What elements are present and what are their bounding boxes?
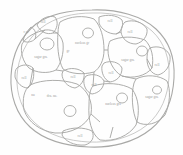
label-cell-left-mid-small: cell <box>22 76 27 80</box>
label-cell-center-sub: gr <box>67 49 71 53</box>
cell-lower-left <box>23 80 91 133</box>
label-cell-edge-left-top: c.w <box>24 30 29 34</box>
cell-right-edge <box>147 47 170 75</box>
label-cell-left-upper: sugar gra. <box>34 55 48 59</box>
nucleus-lower-left <box>64 106 76 117</box>
cell-labels-group: cell sugar gra. c.w nucleus gr gr cell c… <box>22 19 160 138</box>
cell-right-upper <box>121 21 147 44</box>
label-cell-lower-left: dra. nu. <box>47 94 57 98</box>
label-cell-right-mid: sugar gra. <box>121 58 135 62</box>
wall-seam-d <box>122 76 136 79</box>
nucleus-lower-right <box>153 86 162 94</box>
cell-lower-center <box>89 84 139 141</box>
nucleus-center-top <box>83 28 94 38</box>
wall-seam-a <box>56 70 63 71</box>
label-cell-lower-center: nucleus gra <box>105 102 121 106</box>
cell-center-large <box>58 17 104 74</box>
label-cell-right-upper: cell <box>128 30 133 34</box>
label-cell-lower-right: sugar gra. <box>145 95 159 99</box>
label-cell-center-small-a: cell <box>71 75 76 79</box>
label-cell-top-right: cell <box>108 19 113 23</box>
label-cell-top-left-small: cell <box>41 20 46 24</box>
label-cell-center-small-b: cell <box>92 83 97 87</box>
wall-seam-g <box>91 114 100 122</box>
label-cell-center-large: nucleus gr <box>75 41 90 45</box>
wall-seam-l <box>110 127 113 138</box>
cell-left-upper <box>21 30 63 73</box>
label-cell-lower-left-tag: nu <box>31 93 35 97</box>
label-cell-right-edge: cell <box>155 63 160 67</box>
nucleus-right-mid <box>137 46 148 56</box>
nuclei-group <box>40 28 162 117</box>
nucleus-left-upper <box>40 38 54 50</box>
label-cell-center-small-c: cell <box>109 71 114 75</box>
cross-section-drawing: cell sugar gra. c.w nucleus gr gr cell c… <box>0 0 183 155</box>
figure-canvas: cell sugar gra. c.w nucleus gr gr cell c… <box>0 0 183 155</box>
label-cell-bottom-small: cell <box>78 134 83 138</box>
